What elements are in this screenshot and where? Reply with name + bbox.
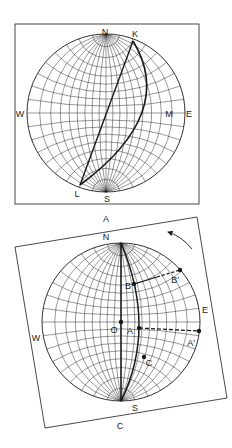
point-a-prime	[197, 329, 201, 333]
label-n: N	[102, 27, 109, 37]
label-s: S	[132, 403, 138, 413]
label-m: M	[165, 109, 173, 119]
panel-c-rotation-overlay	[119, 232, 201, 401]
label-a: A	[127, 326, 133, 336]
point-o	[119, 320, 123, 324]
label-n: N	[103, 232, 110, 242]
label-e: E	[202, 305, 208, 315]
point-b	[132, 282, 136, 286]
point-a	[137, 326, 141, 330]
label-l: L	[74, 189, 79, 199]
panel-c-caption: C	[117, 421, 124, 431]
rotation-arrow-icon	[168, 232, 192, 249]
panel-a-caption: A	[103, 214, 109, 224]
label-a-prime: A'	[187, 338, 195, 348]
label-w: W	[16, 109, 25, 119]
panel-a-stereonet: NKWMELS A	[15, 24, 199, 224]
label-s: S	[104, 194, 110, 204]
stereonet-figure: NKWMELS A NEWSOAA'BB'C C	[0, 0, 232, 448]
label-o: O	[110, 325, 117, 335]
label-w: W	[32, 333, 41, 343]
label-k: K	[132, 29, 138, 39]
label-b-prime: B'	[171, 275, 179, 285]
panel-c-stereonet: NEWSOAA'BB'C C	[15, 217, 227, 431]
path-b-to-b-prime-solid	[134, 277, 157, 284]
label-c: C	[146, 358, 153, 368]
label-b: B	[125, 281, 131, 291]
point-b-prime	[178, 268, 182, 272]
label-e: E	[186, 109, 192, 119]
